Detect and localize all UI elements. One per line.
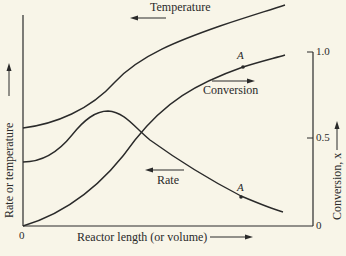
right-tick-1-0: 1.0 <box>316 46 330 57</box>
rate-curve <box>23 111 283 212</box>
rate-label: Rate <box>157 174 179 186</box>
x-origin-label: 0 <box>19 230 25 241</box>
right-axis-label: Conversion, x <box>331 153 343 220</box>
left-axis-label-arrowhead <box>7 63 12 71</box>
right-axis-label-arrowhead <box>335 121 340 129</box>
reactor-profile-diagram <box>0 0 346 256</box>
left-axis-label: Rate or temperature <box>3 123 15 218</box>
conversion-label: Conversion <box>203 84 258 96</box>
temperature-label: Temperature <box>150 1 210 13</box>
right-tick-0-5: 0.5 <box>316 132 330 143</box>
rate-arrowhead <box>145 168 153 173</box>
x-axis-arrowhead <box>245 235 253 240</box>
point-a-rate <box>239 195 243 199</box>
right-tick-0: 0 <box>316 220 322 231</box>
x-axis-label: Reactor length (or volume) <box>77 231 207 243</box>
temperature-arrowhead <box>130 16 138 21</box>
point-a-conversion-label: A <box>237 50 244 61</box>
point-a-rate-label: A <box>237 182 244 193</box>
point-a-conversion <box>241 65 245 69</box>
